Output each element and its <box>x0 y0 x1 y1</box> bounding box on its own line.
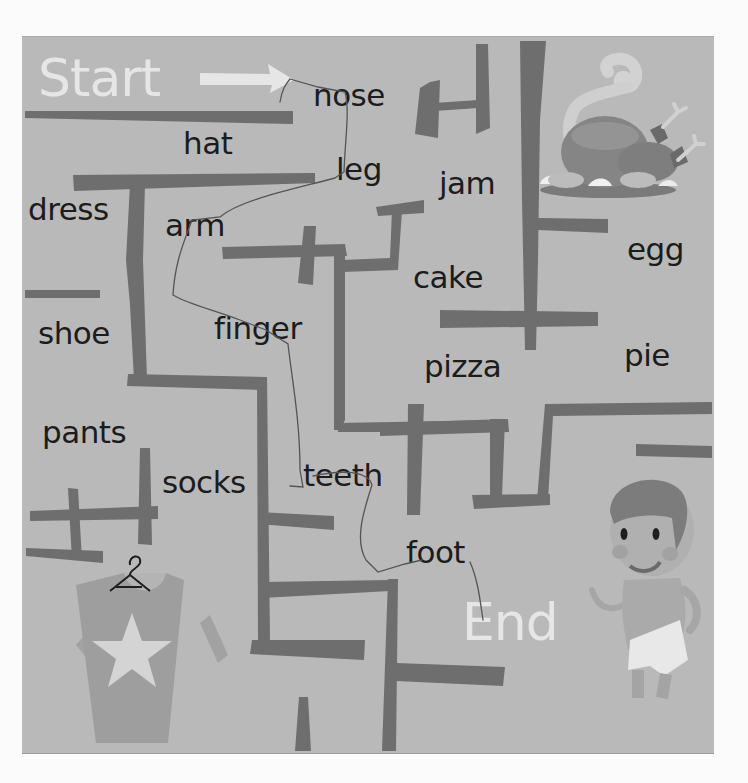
word-teeth[interactable]: teeth <box>303 460 383 491</box>
word-dress[interactable]: dress <box>28 194 109 225</box>
word-shoe[interactable]: shoe <box>38 318 110 349</box>
word-pizza[interactable]: pizza <box>424 351 501 382</box>
word-finger[interactable]: finger <box>214 313 302 344</box>
maze-puzzle: Start End nose hat leg jam dress arm egg… <box>0 0 748 783</box>
word-pants[interactable]: pants <box>42 417 126 448</box>
word-egg[interactable]: egg <box>627 234 684 265</box>
boy-in-shorts-icon <box>580 470 720 700</box>
roast-turkey-icon <box>528 52 708 202</box>
word-nose[interactable]: nose <box>313 80 385 111</box>
word-pie[interactable]: pie <box>624 340 670 371</box>
word-hat[interactable]: hat <box>183 128 232 159</box>
word-jam[interactable]: jam <box>439 168 495 199</box>
start-arrow-icon <box>198 60 298 96</box>
end-label: End <box>462 596 558 648</box>
start-label: Start <box>38 52 160 104</box>
word-socks[interactable]: socks <box>162 467 246 498</box>
shirt-on-hanger-icon <box>50 555 250 745</box>
word-leg[interactable]: leg <box>336 154 382 185</box>
word-cake[interactable]: cake <box>413 262 483 293</box>
word-foot[interactable]: foot <box>406 537 465 568</box>
word-arm[interactable]: arm <box>165 210 225 241</box>
